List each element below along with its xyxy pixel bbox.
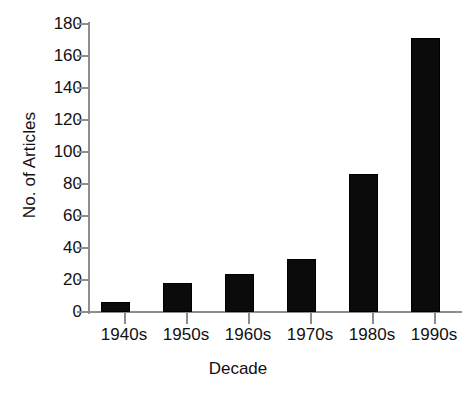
y-axis-tick-label: 20: [38, 271, 82, 288]
bar-1950s: [163, 283, 192, 312]
y-axis-tick-label: 60: [38, 207, 82, 224]
y-axis-tick-label: 80: [38, 175, 82, 192]
bar-1990s: [411, 38, 440, 312]
y-axis-tick-mark: [77, 311, 88, 313]
y-axis-tick-label: 140: [38, 79, 82, 96]
x-axis-tick-mark: [434, 313, 436, 324]
y-axis-line: [88, 22, 90, 314]
y-axis-tick-label: 100: [38, 143, 82, 160]
y-axis-tick-label: 120: [38, 111, 82, 128]
y-axis-tick-mark: [77, 119, 88, 121]
bar-1980s: [349, 174, 378, 312]
y-axis-tick-mark: [77, 279, 88, 281]
x-axis-tick-mark: [124, 313, 126, 324]
y-axis-tick-mark: [77, 87, 88, 89]
y-axis-tick-label: 180: [38, 15, 82, 32]
x-axis-line: [88, 311, 462, 313]
bar-1960s: [225, 274, 254, 312]
x-axis-title: Decade: [0, 359, 476, 379]
x-axis-tick-mark: [186, 313, 188, 324]
x-axis-tick-mark: [372, 313, 374, 324]
y-axis-tick-label: 40: [38, 239, 82, 256]
y-axis-tick-mark: [77, 23, 88, 25]
bar-1940s: [101, 302, 130, 312]
x-axis-tick-label: 1990s: [397, 326, 471, 343]
x-axis-tick-mark: [310, 313, 312, 324]
bar-chart: No. of Articles 020406080100120140160180…: [0, 0, 476, 399]
y-axis-tick-mark: [77, 151, 88, 153]
x-axis-tick-mark: [248, 313, 250, 324]
y-axis-tick-labels: 020406080100120140160180: [34, 0, 82, 399]
y-axis-tick-mark: [77, 215, 88, 217]
y-axis-tick-mark: [77, 183, 88, 185]
bar-1970s: [287, 259, 316, 312]
y-axis-tick-mark: [77, 55, 88, 57]
caption-fragment: [22, 386, 462, 397]
y-axis-tick-label: 0: [38, 303, 82, 320]
y-axis-tick-label: 160: [38, 47, 82, 64]
y-axis-tick-mark: [77, 247, 88, 249]
